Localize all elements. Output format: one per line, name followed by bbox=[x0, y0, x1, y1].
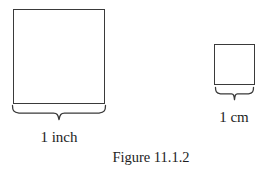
inch-square-label: 1 inch bbox=[0, 130, 118, 145]
cm-square-label: 1 cm bbox=[196, 110, 272, 125]
inch-square bbox=[13, 9, 105, 104]
figure-container: 1 inch 1 cm Figure 11.1.2 bbox=[0, 0, 272, 178]
inch-brace-icon bbox=[10, 104, 108, 122]
cm-square bbox=[214, 44, 255, 85]
cm-brace-icon bbox=[213, 86, 256, 102]
figure-caption: Figure 11.1.2 bbox=[92, 150, 210, 165]
